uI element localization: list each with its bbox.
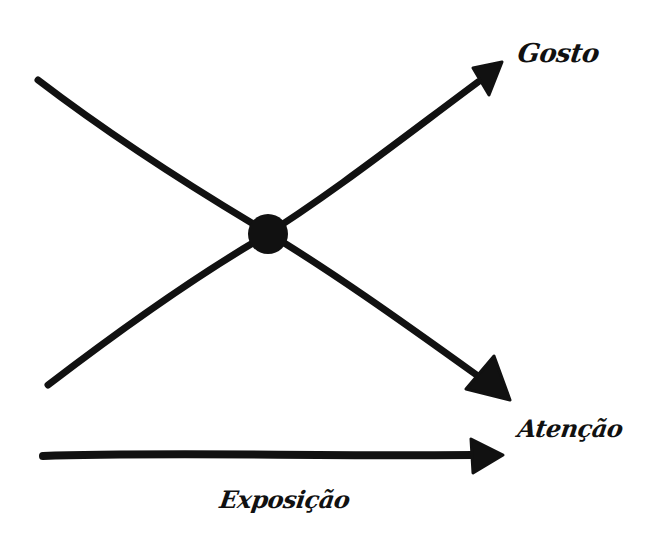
label-gosto: Gosto (516, 38, 601, 68)
intersection-dot (248, 214, 288, 254)
arrowhead-exposicao-icon (471, 439, 503, 473)
diagram-drawing (0, 0, 652, 558)
label-exposicao: Exposição (218, 485, 352, 514)
diagram-canvas: Gosto Atenção Exposição (0, 0, 652, 558)
horizontal-axis-exposicao (43, 439, 503, 473)
arrowhead-gosto-icon (473, 62, 502, 95)
arrowhead-atencao-icon (466, 356, 510, 400)
label-atencao: Atenção (516, 414, 625, 443)
